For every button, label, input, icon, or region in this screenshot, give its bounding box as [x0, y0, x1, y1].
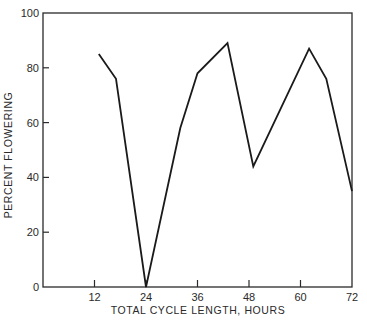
y-tick-label: 40 — [27, 171, 39, 183]
y-axis-ticks: 020406080100 — [21, 7, 49, 293]
line-chart: 020406080100 122436486072 TOTAL CYCLE LE… — [0, 0, 367, 324]
x-tick-label: 12 — [88, 291, 100, 303]
series-line — [99, 43, 352, 287]
x-axis-title: TOTAL CYCLE LENGTH, HOURS — [111, 304, 286, 316]
y-tick-label: 0 — [33, 281, 39, 293]
y-tick-label: 80 — [27, 62, 39, 74]
x-tick-label: 36 — [191, 291, 203, 303]
y-tick-label: 100 — [21, 7, 39, 19]
x-tick-label: 72 — [346, 291, 358, 303]
x-tick-label: 48 — [243, 291, 255, 303]
y-axis-title: PERCENT FLOWERING — [2, 92, 14, 219]
y-tick-label: 60 — [27, 117, 39, 129]
x-tick-label: 60 — [294, 291, 306, 303]
y-tick-label: 20 — [27, 226, 39, 238]
data-series — [99, 43, 352, 287]
x-tick-label: 24 — [140, 291, 152, 303]
x-axis-ticks: 122436486072 — [88, 280, 358, 303]
chart-container: 020406080100 122436486072 TOTAL CYCLE LE… — [0, 0, 367, 324]
